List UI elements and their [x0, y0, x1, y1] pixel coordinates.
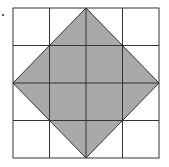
grid-lines — [13, 8, 159, 158]
grid-diagram — [0, 0, 169, 167]
